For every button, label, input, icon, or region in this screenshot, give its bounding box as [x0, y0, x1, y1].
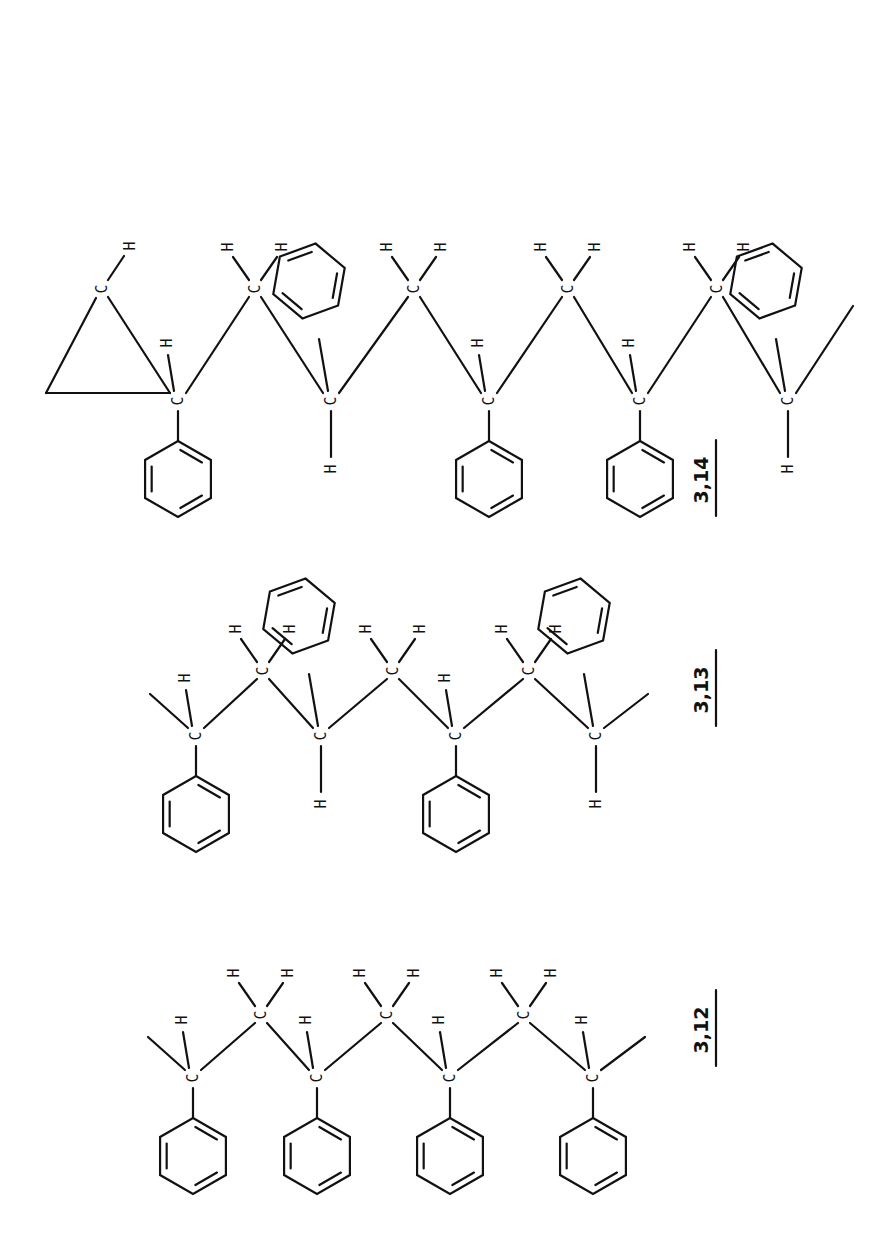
carbon-atom: C: [447, 731, 465, 740]
carbon-atom: C: [559, 284, 577, 293]
phenyl-ring: [456, 441, 522, 517]
hydrogen-atom: H: [432, 242, 450, 251]
c-h-bond: [535, 639, 551, 662]
carbon-atom: C: [779, 396, 797, 405]
hydrogen-atom: H: [227, 624, 245, 633]
hydrogen-atom: H: [779, 464, 797, 473]
backbone-bond: [648, 297, 711, 393]
carbon-atom: C: [312, 731, 330, 740]
structure-3-12: CHHCHHCHHCHCHCHCH: [148, 968, 645, 1194]
c-h-bond: [371, 639, 387, 662]
backbone-bond: [204, 679, 257, 728]
svg-text:3,14: 3,14: [690, 457, 712, 504]
c-h-bond: [392, 257, 408, 280]
carbon-atom: C: [405, 284, 423, 293]
c-h-bond: [574, 257, 590, 280]
hydrogen-atom: H: [735, 242, 753, 251]
carbon-atom: C: [93, 284, 111, 293]
carbon-atom: C: [480, 396, 498, 405]
carbon-atom: C: [322, 396, 340, 405]
hydrogen-atom: H: [351, 968, 369, 977]
hydrogen-atom: H: [573, 1015, 591, 1024]
hydrogen-atom: H: [620, 338, 638, 347]
carbon-atom: C: [246, 284, 264, 293]
backbone-bond: [325, 1023, 381, 1070]
backbone-bond: [186, 297, 249, 393]
chain-end-bond: [46, 298, 96, 393]
c-h-bond: [630, 355, 636, 391]
svg-text:3,12: 3,12: [690, 1007, 712, 1054]
carbon-atom: C: [584, 1073, 602, 1082]
hydrogen-atom: H: [225, 968, 243, 977]
hydrogen-atom: H: [378, 242, 396, 251]
phenyl-bond: [776, 339, 785, 391]
c-h-bond: [307, 1032, 313, 1068]
backbone-bond: [339, 297, 408, 393]
c-h-bond: [530, 983, 546, 1006]
c-h-bond: [239, 983, 255, 1006]
hydrogen-atom: H: [322, 464, 340, 473]
phenyl-ring: [160, 1118, 226, 1194]
structure-3-14: CHHCHHCHHCHHCHCHCHCHCHCH: [46, 241, 853, 517]
backbone-bond: [530, 1023, 585, 1070]
backbone-bond: [393, 1023, 442, 1070]
backbone-bond: [267, 1023, 309, 1070]
c-h-bond: [269, 639, 285, 662]
c-h-bond: [583, 1032, 589, 1068]
structure-label-3-13: 3,13: [690, 650, 716, 726]
hydrogen-atom: H: [411, 624, 429, 633]
backbone-bond: [464, 679, 523, 728]
carbon-atom: C: [254, 666, 272, 675]
c-h-bond: [502, 983, 518, 1006]
phenyl-ring: [607, 441, 673, 517]
hydrogen-atom: H: [493, 624, 511, 633]
carbon-atom: C: [308, 1073, 326, 1082]
structure-3-13: CHHCHHCHHCHCHCHCH: [150, 579, 648, 852]
hydrogen-atom: H: [281, 624, 299, 633]
c-h-bond: [479, 355, 485, 391]
c-h-bond: [108, 256, 124, 280]
phenyl-ring: [163, 776, 229, 852]
backbone-bond: [458, 1023, 518, 1070]
carbon-atom: C: [515, 1010, 533, 1019]
carbon-atom: C: [587, 731, 605, 740]
structure-label-3-14: 3,14: [690, 440, 716, 516]
hydrogen-atom: H: [681, 242, 699, 251]
carbon-atom: C: [631, 396, 649, 405]
c-h-bond: [420, 257, 436, 280]
hydrogen-atom: H: [436, 673, 454, 682]
c-h-bond: [186, 690, 192, 726]
chain-end-bond: [796, 306, 853, 393]
hydrogen-atom: H: [297, 1015, 315, 1024]
carbon-atom: C: [378, 1010, 396, 1019]
carbon-atom: C: [708, 284, 726, 293]
c-h-bond: [695, 257, 711, 280]
svg-text:3,13: 3,13: [690, 667, 712, 714]
phenyl-ring: [145, 441, 211, 517]
carbon-atom: C: [187, 731, 205, 740]
c-h-bond: [393, 983, 409, 1006]
carbon-atom: C: [184, 1073, 202, 1082]
chain-end-bond: [601, 1037, 645, 1070]
hydrogen-atom: H: [405, 968, 423, 977]
phenyl-ring: [560, 1118, 626, 1194]
c-h-bond: [183, 1032, 189, 1068]
carbon-atom: C: [520, 666, 538, 675]
c-h-bond: [365, 983, 381, 1006]
phenyl-bond: [319, 339, 328, 391]
phenyl-bond: [309, 674, 318, 726]
c-h-bond: [168, 355, 174, 391]
phenyl-ring: [263, 579, 334, 654]
phenyl-ring: [730, 244, 801, 319]
hydrogen-atom: H: [312, 799, 330, 808]
backbone-bond: [497, 297, 562, 393]
hydrogen-atom: H: [279, 968, 297, 977]
c-h-bond: [446, 690, 452, 726]
hydrogen-atom: H: [173, 1015, 191, 1024]
phenyl-ring: [423, 776, 489, 852]
c-h-bond: [507, 639, 523, 662]
carbon-atom: C: [169, 396, 187, 405]
c-h-bond: [261, 257, 277, 280]
hydrogen-atom: H: [587, 799, 605, 808]
hydrogen-atom: H: [357, 624, 375, 633]
